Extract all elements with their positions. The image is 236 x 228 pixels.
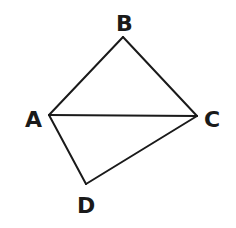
segment-ad <box>49 115 86 184</box>
label-d: D <box>77 193 95 218</box>
label-b: B <box>116 11 133 36</box>
label-c: C <box>204 107 220 132</box>
label-a: A <box>25 107 42 132</box>
segment-ab <box>49 37 123 115</box>
segment-dc <box>86 116 197 184</box>
quadrilateral-diagram: B A C D <box>0 0 236 228</box>
segment-ac <box>49 115 197 116</box>
segment-bc <box>123 37 197 116</box>
